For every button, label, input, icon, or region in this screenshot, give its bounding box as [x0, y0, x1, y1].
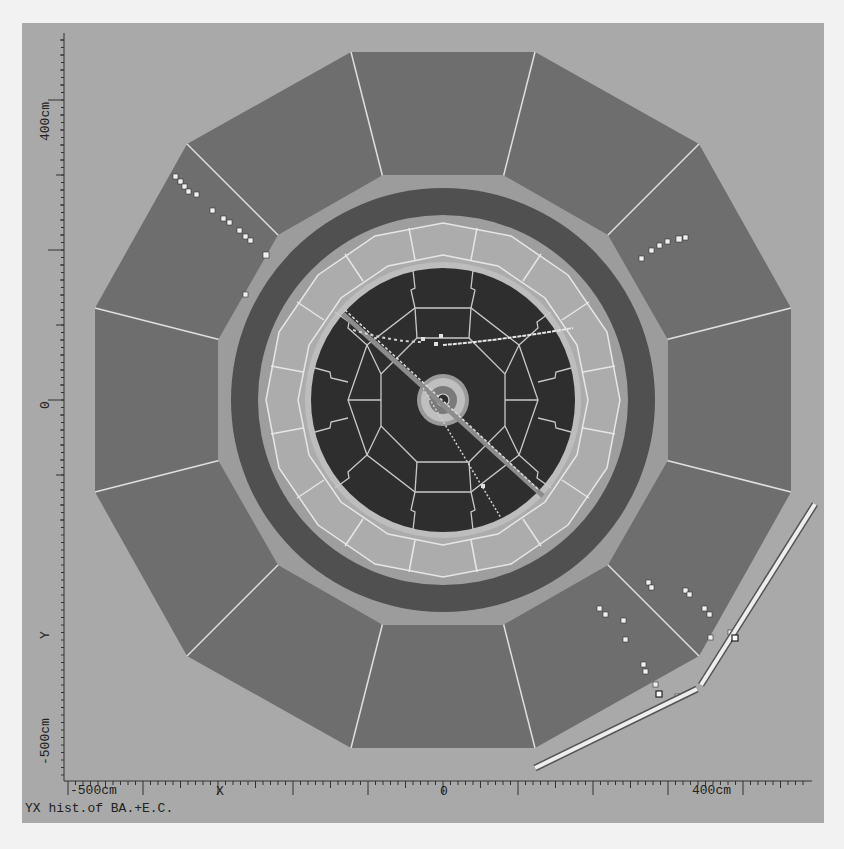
plot-caption: YX hist.of BA.+E.C. — [25, 802, 173, 815]
x-tick-0: 0 — [440, 785, 448, 798]
x-tick-minus500: -500cm — [70, 784, 117, 797]
y-axis-label: Y — [39, 631, 52, 639]
y-tick-minus500: -500cm — [39, 718, 52, 765]
detector-view — [22, 23, 824, 823]
x-tick-400: 400cm — [692, 784, 731, 797]
plot-frame: 400cm 0 Y -500cm -500cm X 0 400cm YX his… — [22, 23, 824, 823]
y-tick-400: 400cm — [39, 102, 52, 141]
x-axis-label: X — [216, 785, 224, 798]
y-tick-0: 0 — [39, 401, 52, 409]
